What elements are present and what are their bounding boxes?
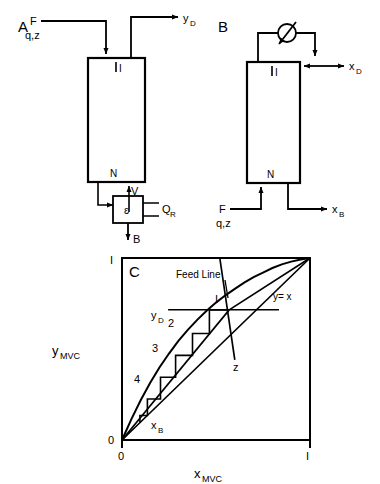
chart-y-axis-label-sub: MVC [60,351,81,361]
chart-distillate-subscript: D [158,316,164,325]
panel-a-bottoms-label: B [133,233,140,245]
panel-a-feed-label: F [30,15,37,27]
chart-feed-comp-label: z [233,361,239,373]
figure-background [0,0,380,484]
chart-step-number-1: I [215,293,218,305]
chart-step-number-3: 3 [152,342,158,354]
chart-yx-line-label: y= x [273,291,292,302]
panel-b-feed-label: F [219,203,226,215]
chart-x-axis-label: x [194,466,201,481]
panel-a-feed-condition-label: q,z [25,29,40,41]
panel-b-top-stage-label: I [275,67,278,78]
chart-y-axis-label: y [52,343,59,358]
chart-ytick-bottom: 0 [108,434,114,446]
chart-distillate-label: y [151,309,157,321]
panel-a-distillate-label: y [183,12,189,24]
chart-x-axis-label-sub: MVC [202,474,223,484]
panel-b-distillate-subscript: D [356,67,362,76]
panel-a-reboiler-duty-subscript: R [170,210,176,219]
panel-b-feed-condition-label: q,z [216,217,231,229]
chart-panel-letter: C [129,263,140,280]
panel-b-distillate-label: x [349,60,355,72]
chart-xtick-right: I [306,450,309,462]
chart-xtick-left: 0 [118,450,124,462]
chart-step-number-4: 4 [134,373,140,385]
chart-bottoms-label: x [151,419,157,431]
chart-feed-line-label: Feed Line [176,269,221,280]
panel-a-distillate-subscript: D [190,19,196,28]
panel-a-reboiler-symbol: ɛ [124,204,129,216]
panel-b-letter: B [218,18,228,35]
chart-bottoms-subscript: B [158,426,163,435]
panel-b-bottom-stage-label: N [267,169,274,180]
panel-a-top-stage-label: I [119,63,122,74]
distillation-figure: A I N F q,z y D V ɛ Q R B B I [0,0,380,484]
chart-ytick-top: I [110,254,113,266]
panel-b-bottoms-subscript: B [339,210,344,219]
panel-a-bottom-stage-label: N [110,168,117,179]
panel-b-bottoms-label: x [332,203,338,215]
chart-step-number-2: 2 [168,317,174,329]
